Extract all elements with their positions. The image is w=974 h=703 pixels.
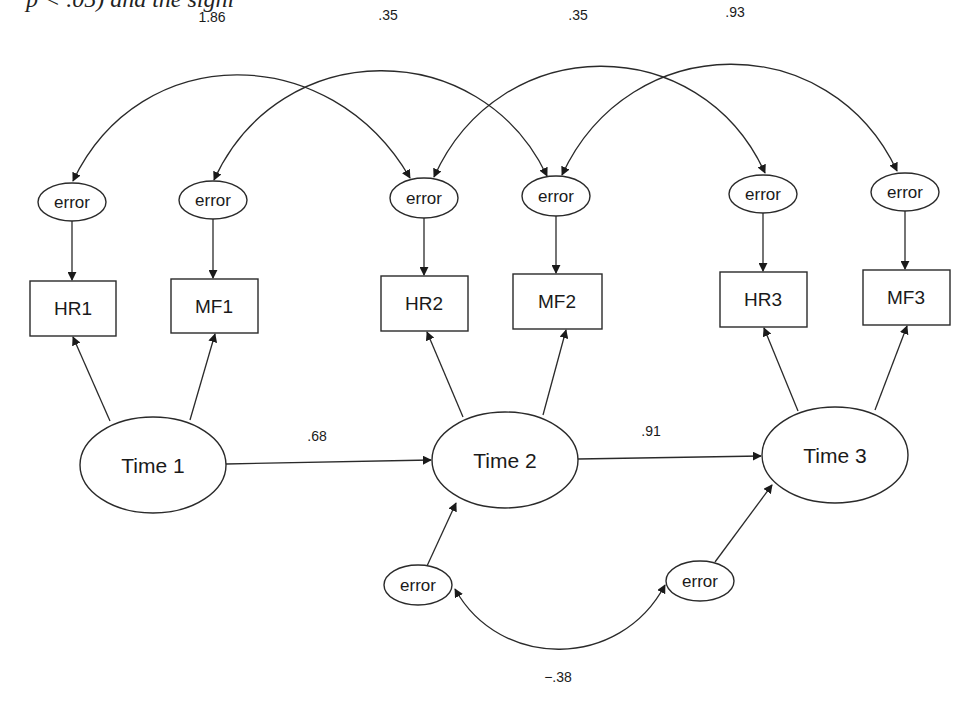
latent-factor-time2: Time 2	[432, 412, 578, 508]
svg-text:error: error	[195, 191, 231, 210]
coef-hr1-hr2: 1.86	[198, 9, 225, 25]
latent-factor-time1: Time 1	[80, 417, 226, 513]
coef-mf2-mf3: .93	[725, 4, 745, 20]
loading-t3-mf3	[875, 326, 907, 410]
svg-text:Time 3: Time 3	[803, 444, 866, 467]
error-node-mf2: error	[522, 176, 590, 216]
indicator-box-hr2: HR2	[381, 276, 468, 331]
error-node-mf1: error	[179, 181, 247, 219]
coef-disturbance-t2-t3: −.38	[544, 669, 572, 685]
svg-text:MF2: MF2	[538, 291, 576, 312]
error-node-hr3: error	[729, 175, 797, 213]
path-t1-t2	[226, 460, 431, 464]
error-node-time2: error	[384, 565, 452, 605]
latent-factor-time3: Time 3	[762, 407, 908, 503]
arrow-error-time3	[715, 485, 772, 562]
error-node-hr2: error	[390, 178, 458, 218]
svg-text:Time 1: Time 1	[121, 454, 184, 477]
svg-text:error: error	[538, 187, 574, 206]
correlation-arc-hr1-hr2	[73, 75, 410, 181]
loading-t3-hr3	[764, 328, 798, 411]
loading-t2-mf2	[543, 330, 566, 415]
svg-text:error: error	[406, 189, 442, 208]
svg-text:error: error	[682, 572, 718, 591]
loading-t1-hr1	[73, 337, 110, 421]
coef-t2-t3: .91	[641, 423, 661, 439]
svg-text:MF1: MF1	[195, 296, 233, 317]
loading-t1-mf1	[190, 334, 215, 420]
error-node-time3: error	[666, 561, 734, 601]
svg-text:error: error	[745, 185, 781, 204]
svg-text:MF3: MF3	[887, 287, 925, 308]
svg-text:error: error	[54, 193, 90, 212]
svg-text:Time 2: Time 2	[473, 449, 536, 472]
indicator-box-hr3: HR3	[720, 272, 807, 327]
correlation-arc-mf1-mf2	[214, 71, 547, 180]
svg-text:HR2: HR2	[405, 293, 443, 314]
correlation-arc-time2-time3-errors	[455, 585, 665, 649]
arrow-error-time2	[427, 503, 456, 566]
svg-text:error: error	[400, 576, 436, 595]
indicator-box-mf3: MF3	[863, 270, 950, 325]
coef-hr2-hr3: .35	[568, 7, 588, 23]
indicator-box-hr1: HR1	[30, 281, 116, 336]
error-node-mf3: error	[871, 173, 939, 211]
svg-text:error: error	[887, 183, 923, 202]
correlation-arc-hr2-hr3	[434, 66, 765, 177]
svg-text:HR3: HR3	[744, 289, 782, 310]
svg-text:HR1: HR1	[54, 298, 92, 319]
error-node-hr1: error	[38, 183, 106, 221]
indicator-box-mf1: MF1	[171, 279, 258, 333]
coef-t1-t2: .68	[307, 428, 327, 444]
path-t2-t3	[578, 456, 761, 459]
loading-t2-hr2	[427, 332, 463, 417]
coef-mf1-mf2: .35	[378, 7, 398, 23]
indicator-box-mf2: MF2	[513, 274, 602, 329]
sem-path-diagram: 1.86 .35 .35 .93 error error error error…	[0, 0, 974, 703]
